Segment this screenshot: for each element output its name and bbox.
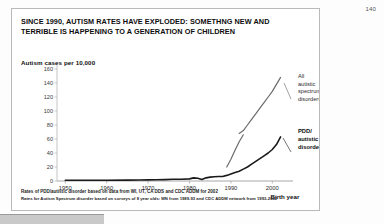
y-tick-label: 0 bbox=[31, 178, 53, 184]
series-label-line: autistic bbox=[298, 81, 320, 89]
chart-svg bbox=[12, 9, 320, 211]
chart-axes bbox=[55, 65, 294, 184]
series-label-line: disorder bbox=[298, 144, 320, 152]
series-label-pdd: PDD/autisticdisorder bbox=[298, 128, 320, 152]
chart-leader-lines bbox=[283, 83, 291, 152]
y-tick-label: 160 bbox=[31, 66, 53, 72]
slide-card: SINCE 1990, AUTISM RATES HAVE EXPLODED: … bbox=[11, 8, 320, 211]
y-tick-label: 100 bbox=[31, 108, 53, 114]
chart-series bbox=[65, 77, 280, 180]
series-label-line: PDD/ bbox=[298, 128, 320, 136]
series-label-line: autistic bbox=[298, 136, 320, 144]
page-number: 140 bbox=[365, 6, 376, 12]
y-tick-label: 80 bbox=[31, 122, 53, 128]
series-label-line: All bbox=[298, 73, 320, 81]
chart-plot-area: 020406080100120140160 195019601970198019… bbox=[12, 9, 320, 211]
y-tick-label: 140 bbox=[31, 80, 53, 86]
y-tick-label: 60 bbox=[31, 136, 53, 142]
series-label-all-asd: Allautisticspectrumdisorders bbox=[298, 73, 320, 104]
footnote-line-2: Rates for Autism Spectrum disorder based… bbox=[21, 196, 313, 202]
y-tick-label: 40 bbox=[31, 150, 53, 156]
series-label-line: spectrum bbox=[298, 88, 320, 96]
series-label-line: disorders bbox=[298, 96, 320, 104]
y-tick-label: 120 bbox=[31, 94, 53, 100]
y-tick-label: 20 bbox=[31, 164, 53, 170]
bottom-ui-strip bbox=[0, 214, 104, 224]
